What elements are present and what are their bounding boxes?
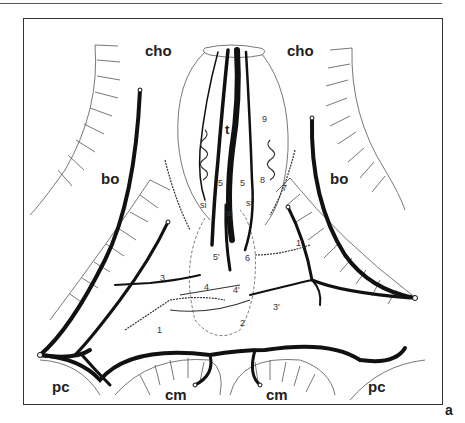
label-4prime: 4': [233, 285, 240, 295]
label-8: 8: [260, 175, 265, 185]
vase-rim: [203, 45, 264, 58]
label-si-3: si: [246, 198, 253, 208]
label-4: 4: [204, 282, 209, 292]
label-7: 7: [282, 183, 287, 193]
label-bo-right: bo: [330, 170, 348, 187]
label-bo-left: bo: [101, 170, 119, 187]
left-outer-arc: [30, 45, 96, 215]
right-outer-arc: [352, 48, 405, 210]
label-cm-right: cm: [266, 386, 288, 403]
right-inner-arc: [290, 178, 412, 295]
vascular-diagram: [0, 0, 465, 423]
dashed-oval: [189, 210, 255, 336]
label-6: 6: [245, 253, 250, 263]
tortuous-vessel-right: [267, 140, 274, 180]
label-1prime: 1': [296, 238, 303, 248]
label-cm-left: cm: [165, 386, 187, 403]
label-cho-right: cho: [287, 42, 314, 59]
label-si-2: si: [226, 208, 233, 218]
label-3prime: 3': [273, 302, 280, 312]
panel-letter: a: [445, 402, 453, 418]
bottom-vessel: [40, 347, 405, 380]
label-5prime: 5': [213, 252, 220, 262]
label-pc-left: pc: [52, 378, 70, 395]
right-large-vessel: [312, 118, 415, 298]
pc-right-arc: [350, 360, 425, 400]
left-large-vessel: [40, 90, 140, 355]
label-9: 9: [262, 114, 267, 124]
label-pc-right: pc: [368, 378, 386, 395]
label-cho-left: cho: [145, 42, 172, 59]
label-t: t: [225, 122, 229, 137]
label-si-1: si: [200, 200, 207, 210]
left-inner-arc: [50, 180, 150, 320]
label-5b: 5: [240, 178, 245, 188]
label-1: 1: [157, 325, 162, 335]
label-2: 2: [240, 318, 245, 328]
label-5a: 5: [218, 178, 223, 188]
label-3: 3: [160, 273, 165, 283]
